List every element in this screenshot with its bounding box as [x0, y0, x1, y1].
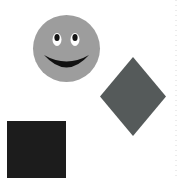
black-square-shape[interactable] — [7, 121, 66, 178]
right-eye-pupil — [72, 34, 77, 41]
smiley-face-circle[interactable] — [33, 15, 100, 82]
left-eye-pupil — [54, 34, 59, 41]
shape-canvas-root: Shapes Canvas Three flat grayscale shape… — [0, 0, 182, 178]
smiley-face[interactable] — [33, 15, 100, 82]
shapes-canvas — [0, 0, 182, 178]
